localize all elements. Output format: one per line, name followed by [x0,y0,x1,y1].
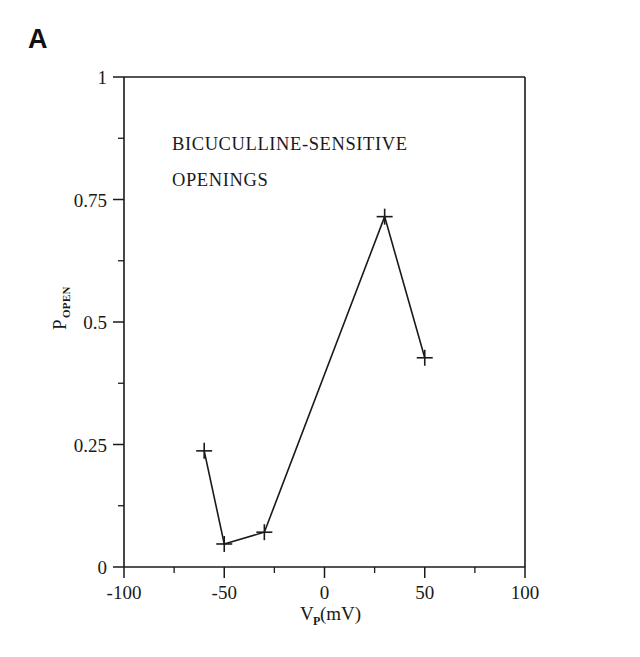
x-tick-label: 0 [320,582,330,603]
y-axis-ticks [113,77,124,567]
data-point-marker [196,443,212,459]
data-series-group [196,209,433,552]
y-axis-title-subscript: OPEN [60,286,72,318]
x-tick-label: -100 [107,582,142,603]
x-tick-label: -50 [212,582,237,603]
x-axis-tick-labels: -100-50050100 [107,582,540,603]
data-line-path [204,217,425,544]
y-axis-title: P OPEN [49,286,72,330]
x-axis-title-unit: (mV) [320,603,361,625]
x-axis-ticks [124,567,525,578]
data-point-marker [377,209,393,225]
y-tick-label: 0 [98,557,108,578]
figure-panel-a: A -100-50050100 00.250.50.751 BICUCULLIN… [0,0,640,657]
data-point-marker [417,350,433,366]
y-axis-title-main: P [49,319,70,330]
data-point-marker [216,536,232,552]
y-tick-label: 0.5 [83,312,107,333]
plot-annotation: BICUCULLINE-SENSITIVEOPENINGS [172,134,408,190]
y-tick-label: 0.75 [74,190,107,211]
data-point-marker [256,524,272,540]
chart-plot-area: -100-50050100 00.250.50.751 BICUCULLINE-… [0,0,640,657]
y-axis-tick-labels: 00.250.50.751 [74,67,107,578]
x-axis-title: V P (mV) [300,603,361,628]
x-tick-label: 50 [415,582,434,603]
x-axis-title-main: V [300,603,314,624]
annotation-line: BICUCULLINE-SENSITIVE [172,134,408,154]
y-tick-label: 1 [98,67,108,88]
x-tick-label: 100 [511,582,540,603]
y-tick-label: 0.25 [74,435,107,456]
annotation-line: OPENINGS [172,170,268,190]
